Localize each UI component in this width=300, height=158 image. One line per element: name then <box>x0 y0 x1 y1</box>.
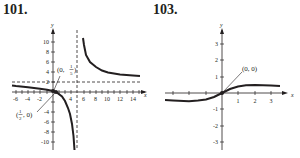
svg-text:3: 3 <box>215 41 218 47</box>
svg-text:1: 1 <box>70 64 73 69</box>
svg-text:12: 12 <box>117 96 123 102</box>
x-ticks <box>173 91 271 95</box>
svg-text:-4: -4 <box>25 96 30 102</box>
svg-text:2: 2 <box>254 98 257 104</box>
svg-text:8: 8 <box>46 49 49 55</box>
leader-line <box>223 72 242 92</box>
svg-text:-10: -10 <box>41 139 49 145</box>
svg-text:5: 5 <box>70 71 73 76</box>
svg-text:(0,: (0, <box>57 66 65 74</box>
y-axis-label: y <box>219 22 223 28</box>
svg-text:4: 4 <box>69 96 72 102</box>
x-axis-arrow-icon <box>282 91 288 95</box>
svg-text:-2: -2 <box>37 96 42 102</box>
svg-text:14: 14 <box>130 96 136 102</box>
svg-text:2: 2 <box>215 57 218 63</box>
point-origin <box>220 91 224 95</box>
svg-text:-3: -3 <box>213 139 218 145</box>
svg-text:1: 1 <box>237 98 240 104</box>
svg-text:10: 10 <box>43 39 49 45</box>
annotation-point-a: (0, 1 5 ) <box>57 64 77 76</box>
svg-text:6: 6 <box>82 96 85 102</box>
y-axis-arrow-icon <box>220 28 224 34</box>
curve-right-branch <box>83 38 140 76</box>
svg-text:4: 4 <box>46 69 49 75</box>
svg-text:, 0): , 0) <box>23 111 33 119</box>
svg-text:-2: -2 <box>213 123 218 129</box>
x-axis-label: x <box>290 92 294 98</box>
svg-text:-4: -4 <box>44 109 49 115</box>
curve <box>165 85 280 101</box>
svg-text:1: 1 <box>215 74 218 80</box>
svg-text:8: 8 <box>94 96 97 102</box>
svg-text:10: 10 <box>104 96 110 102</box>
svg-text:6: 6 <box>46 59 49 65</box>
svg-text:-1: -1 <box>213 106 218 112</box>
svg-text:2: 2 <box>19 116 22 121</box>
svg-text:): ) <box>74 66 77 74</box>
annotation-point-b: ( 1 2 , 0) <box>16 109 33 121</box>
graph-101: x y -6 -4 -2 4 6 8 10 12 14 10 8 6 4 2 <box>0 0 150 158</box>
annotation-origin: (0, 0) <box>242 65 258 73</box>
leader-line-a <box>54 76 60 90</box>
svg-text:1: 1 <box>19 109 22 114</box>
y-ticks <box>220 44 224 142</box>
x-tick-labels: -6 -4 -2 4 6 8 10 12 14 <box>13 96 136 102</box>
y-axis-label: y <box>50 22 54 28</box>
y-axis-arrow-icon <box>51 28 55 34</box>
y-tick-labels: 3 2 1 -1 -2 -3 <box>213 41 218 145</box>
svg-text:-6: -6 <box>44 119 49 125</box>
svg-text:3: 3 <box>270 98 273 104</box>
svg-text:-8: -8 <box>44 129 49 135</box>
svg-text:-6: -6 <box>13 96 18 102</box>
x-tick-labels: 1 2 3 <box>237 98 273 104</box>
problem-number-103: 103. <box>153 2 178 18</box>
x-axis-label: x <box>143 92 147 98</box>
